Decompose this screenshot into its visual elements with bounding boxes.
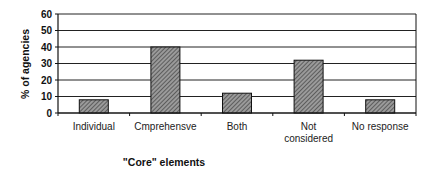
y-tick-label: 20 xyxy=(41,75,53,86)
y-tick-label: 10 xyxy=(41,91,53,102)
bar-cmprehensve xyxy=(151,47,180,113)
x-category-label: No response xyxy=(352,121,409,132)
y-tick-labels: 0102030405060 xyxy=(41,9,53,119)
bar-chart: 0102030405060 IndividualCmprehensveBothN… xyxy=(0,0,434,177)
x-axis-title: "Core" elements xyxy=(123,156,205,168)
y-tick-label: 40 xyxy=(41,42,53,53)
bar-individual xyxy=(79,100,108,113)
x-category-label: Both xyxy=(227,121,248,132)
x-category-label: Not xyxy=(301,121,317,132)
y-tick-label: 50 xyxy=(41,25,53,36)
x-category-labels: IndividualCmprehensveBothNotconsideredNo… xyxy=(73,121,409,144)
y-tick-label: 30 xyxy=(41,58,53,69)
bar-not-considered xyxy=(294,60,323,113)
x-category-label: Cmprehensve xyxy=(134,121,197,132)
bar-both xyxy=(223,93,252,113)
y-axis-title: % of agencies xyxy=(19,29,31,99)
x-category-label: considered xyxy=(284,133,333,144)
y-tick-label: 60 xyxy=(41,9,53,20)
bar-no-response xyxy=(366,100,395,113)
y-tick-label: 0 xyxy=(46,108,52,119)
x-category-label: Individual xyxy=(73,121,115,132)
